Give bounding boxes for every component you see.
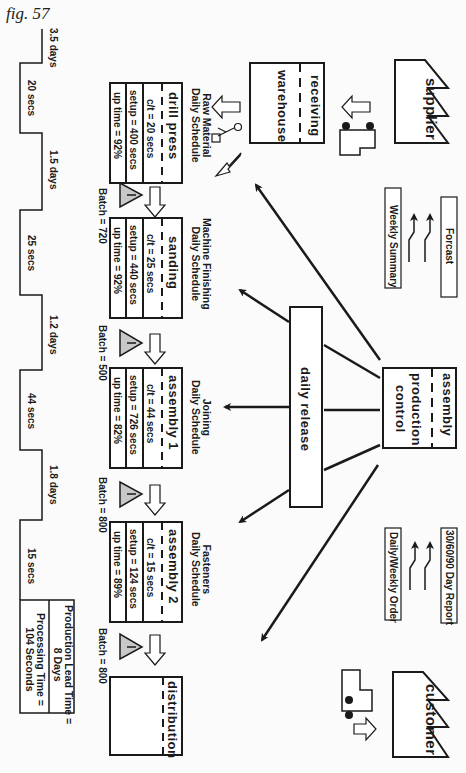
distribution-label: distribution [165, 681, 180, 759]
push-arrow-2 [145, 334, 165, 364]
order-zigzag-arrow-2 [410, 543, 415, 590]
push-arrow-3 [145, 485, 165, 515]
schedule-label-sanding: Machine FinishingDaily Schedule [190, 218, 212, 310]
timeline-wait-1: 3.5 days [48, 28, 59, 67]
process-name-assembly-2: assembly 2 [166, 529, 181, 604]
supplier-label: supplier [423, 78, 440, 140]
process-ct-assembly-1: c/t = 44 secs [145, 384, 156, 443]
process-uptime-assembly-1: up time = 82% [112, 377, 123, 444]
production-control-label-2: production [409, 373, 424, 446]
customer-push-arrow [354, 718, 376, 740]
timeline-process-4: 15 secs [26, 548, 37, 584]
process-name-assembly-1: assembly 1 [166, 375, 181, 450]
process-uptime-sanding: up time = 92% [112, 227, 123, 294]
production-lead-time: Production Lead Time =8 Days [52, 605, 74, 724]
push-arrow-1 [145, 187, 165, 217]
inventory-triangle-1 [120, 183, 142, 207]
timeline-wait-2: 1.5 days [48, 150, 59, 189]
daily-weekly-order-label: Daily/Weekly Order [388, 532, 399, 623]
process-ct-assembly-2: c/t = 15 secs [145, 538, 156, 597]
process-name-sanding: sanding [166, 236, 181, 289]
warehouse-bottom-label: warehouse [275, 70, 290, 142]
daily-release-label: daily release [298, 367, 313, 452]
operator-icon [212, 124, 242, 143]
processing-time: Processing Time =104 Seconds [24, 613, 46, 706]
process-setup-assembly-1: setup = 726 secs [128, 375, 139, 455]
schedule-label-assembly-2: FastenersDaily Schedule [190, 532, 212, 607]
supplier-push-arrow [342, 96, 370, 118]
batch-label-4: Batch = 800 [97, 628, 108, 684]
process-name-drill-press: drill press [166, 92, 181, 160]
order-zigzag-arrow-1 [425, 543, 430, 590]
inventory-triangle-4 [120, 634, 142, 659]
production-control-label-3: control [393, 385, 408, 433]
process-setup-sanding: setup = 440 secs [128, 225, 139, 305]
batch-label-2: Batch = 500 [97, 325, 108, 381]
forecast-zigzag-arrow-2 [409, 215, 414, 262]
timeline-process-2: 25 secs [26, 235, 37, 271]
warehouse-push-arrow [212, 96, 240, 118]
day-report-label: 30/60/90 Day Report [444, 530, 455, 625]
timeline-wait-4: 1.8 days [48, 465, 59, 504]
schedule-label-drill-press: Raw MaterialDaily Schedule [190, 88, 212, 163]
warehouse-top-label: receiving [308, 75, 323, 137]
process-uptime-assembly-2: up time = 89% [112, 531, 123, 598]
supplier-factory [395, 60, 448, 143]
forecast-label: Forcast [444, 228, 455, 264]
process-setup-drill-press: setup = 400 secs [128, 90, 139, 170]
timeline-wait-3: 1.2 days [48, 315, 59, 354]
weekly-summary-label: Weekly Summary [388, 205, 399, 288]
process-uptime-drill-press: up time = 92% [112, 92, 123, 159]
inventory-triangle-3 [120, 482, 142, 507]
customer-truck-icon [342, 670, 372, 719]
push-arrow-4 [145, 635, 165, 665]
operator-push-arrow [216, 153, 241, 176]
forecast-zigzag-arrow-1 [425, 215, 430, 262]
process-ct-drill-press: c/t = 20 secs [145, 99, 156, 158]
supplier-truck-icon [340, 122, 375, 155]
inventory-triangle-2 [120, 330, 142, 356]
production-control-label-1: assembly [440, 373, 455, 436]
process-ct-sanding: c/t = 25 secs [145, 234, 156, 293]
timeline-process-3: 44 secs [26, 393, 37, 429]
batch-label-3: Batch = 800 [97, 477, 108, 533]
schedule-label-assembly-1: JoiningDaily Schedule [190, 380, 212, 455]
customer-label: customer [423, 684, 440, 756]
timeline-process-1: 20 secs [26, 80, 37, 116]
process-setup-assembly-2: setup = 124 secs [128, 529, 139, 609]
batch-label-1: Batch = 720 [97, 188, 108, 244]
